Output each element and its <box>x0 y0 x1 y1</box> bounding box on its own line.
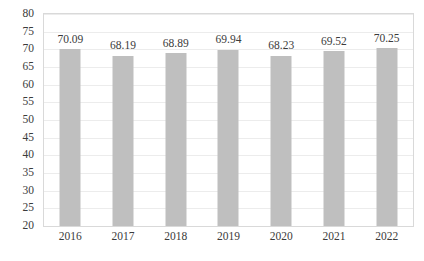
x-axis-tick-label: 2017 <box>112 231 135 243</box>
y-axis-tick-label: 25 <box>0 203 34 215</box>
x-axis-tick-label: 2021 <box>322 231 345 243</box>
bar[interactable] <box>113 56 134 226</box>
bar-slot: 68.89 <box>149 14 202 226</box>
y-axis-tick-label: 70 <box>0 44 34 56</box>
y-axis-tick-label: 55 <box>0 97 34 109</box>
bar-slot: 69.94 <box>202 14 255 226</box>
y-axis-tick-label: 20 <box>0 220 34 232</box>
bar-value-label: 68.89 <box>163 38 189 50</box>
bar-slot: 68.23 <box>255 14 308 226</box>
bar[interactable] <box>60 49 81 226</box>
bar[interactable] <box>218 50 239 226</box>
plot-area: 70.0968.1968.8969.9468.2369.5270.25 <box>43 13 414 227</box>
y-axis: 80757065605550454035302520 <box>0 13 39 227</box>
bar-slot: 70.25 <box>360 14 413 226</box>
x-axis-tick-label: 2022 <box>375 231 398 243</box>
bar[interactable] <box>165 53 186 226</box>
y-axis-tick-label: 50 <box>0 114 34 126</box>
x-axis-tick-label: 2019 <box>217 231 240 243</box>
bar[interactable] <box>323 51 344 226</box>
bar-slot: 70.09 <box>44 14 97 226</box>
bar-value-label: 70.25 <box>374 33 400 45</box>
bar-chart: 80757065605550454035302520 70.0968.1968.… <box>0 0 424 261</box>
y-axis-tick-label: 65 <box>0 61 34 73</box>
bars-layer: 70.0968.1968.8969.9468.2369.5270.25 <box>44 14 413 226</box>
bar-value-label: 68.19 <box>110 40 136 52</box>
gridline <box>44 226 413 227</box>
bar[interactable] <box>271 56 292 226</box>
x-axis-tick-label: 2018 <box>164 231 187 243</box>
bar-value-label: 69.52 <box>321 36 347 48</box>
x-axis-tick-label: 2016 <box>59 231 82 243</box>
bar-value-label: 70.09 <box>57 34 83 46</box>
y-axis-tick-label: 35 <box>0 167 34 179</box>
y-axis-tick-label: 30 <box>0 185 34 197</box>
y-axis-tick-label: 75 <box>0 26 34 38</box>
y-axis-tick-label: 60 <box>0 79 34 91</box>
bar[interactable] <box>376 48 397 226</box>
bar-slot: 69.52 <box>308 14 361 226</box>
y-axis-tick-label: 80 <box>0 8 34 20</box>
x-axis-tick-label: 2020 <box>270 231 293 243</box>
bar-value-label: 68.23 <box>268 40 294 52</box>
y-axis-tick-label: 40 <box>0 150 34 162</box>
y-axis-tick-label: 45 <box>0 132 34 144</box>
bar-value-label: 69.94 <box>216 34 242 46</box>
bar-slot: 68.19 <box>97 14 150 226</box>
x-axis: 2016201720182019202020212022 <box>43 231 414 253</box>
